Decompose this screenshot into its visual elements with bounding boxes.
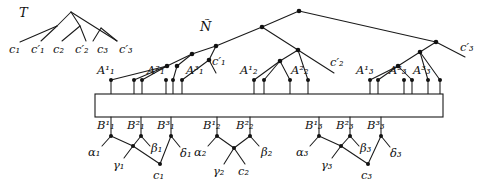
diagram-canvas <box>0 0 478 191</box>
A-node-ticks <box>111 80 440 94</box>
gadget-connector-box <box>95 94 443 117</box>
tree-network-gadget-figure: T c₁ c′₁ c₂ c′₂ c₃ c′₃ Ñ c′₁ c′₂ c′₃ A¹₁… <box>0 0 478 191</box>
A-node-label-A1-1: A¹₁ <box>97 65 115 77</box>
gadget3-leaf-alpha3: α₃ <box>296 147 308 159</box>
tree-T-leaf-c3-prime: c′₃ <box>119 44 133 56</box>
A-node-label-A2-3: A²₃ <box>389 65 407 77</box>
gadget1-leaf-gamma1: γ₁ <box>113 160 124 172</box>
B-node-label-B2-1: B²₁ <box>127 120 145 132</box>
tree-T-leaf-c2: c₂ <box>53 44 64 56</box>
gadget1-leaf-alpha1: α₁ <box>88 147 100 159</box>
gadget2-leaf-beta2: β₂ <box>261 147 272 159</box>
gadget1-leaf-c1: c₁ <box>153 170 164 182</box>
B-node-label-B1-2: B¹₂ <box>203 120 221 132</box>
B-node-label-B2-2: B²₂ <box>236 120 254 132</box>
A-node-label-A1-2: A¹₂ <box>240 65 258 77</box>
B-node-label-B3-1: B³₁ <box>157 120 175 132</box>
A-node-label-A3-1: A³₁ <box>186 65 204 77</box>
A-node-label-A3-3: A³₃ <box>413 65 431 77</box>
B-node-label-B1-1: B¹₁ <box>97 120 115 132</box>
gadget3-leaf-c3: c₃ <box>361 170 372 182</box>
tree-T-label: T <box>19 6 28 19</box>
A-node-label-A2-2: A²₂ <box>291 65 309 77</box>
tree-T-leaf-c2-prime: c′₂ <box>75 44 89 56</box>
gadget3-leaf-beta3: β₃ <box>360 143 371 155</box>
tree-T-leaf-c1-prime: c′₁ <box>31 44 45 56</box>
B-node-label-B1-3: B¹₃ <box>305 120 323 132</box>
network-N-label: Ñ <box>200 20 211 33</box>
gadget2-leaf-gamma2: γ₂ <box>213 166 224 178</box>
B-node-label-B2-3: B²₃ <box>336 120 354 132</box>
A-node-label-A1-3: A¹₃ <box>356 65 374 77</box>
gadget2-leaf-alpha2: α₂ <box>194 147 206 159</box>
tree-T-edges <box>20 12 117 42</box>
network-leaf-c2-prime: c′₂ <box>330 57 344 69</box>
network-leaf-c3-prime: c′₃ <box>460 42 474 54</box>
A-node-label-A2-1: A²₁ <box>147 65 165 77</box>
network-leaf-c1-prime: c′₁ <box>212 56 226 68</box>
gadget1-leaf-delta1: δ₁ <box>180 148 192 160</box>
tree-T-leaf-c1: c₁ <box>9 44 20 56</box>
gadget1-leaf-beta1: β₁ <box>151 143 162 155</box>
gadget3-leaf-delta3: δ₃ <box>390 148 402 160</box>
gadget2-leaf-c2: c₂ <box>238 166 249 178</box>
gadget-group-2-edges <box>208 136 259 164</box>
A-node-dots <box>109 78 442 82</box>
tree-T-leaf-c3: c₃ <box>97 44 108 56</box>
gadget-group-2-dots <box>215 134 252 150</box>
B-node-label-B3-3: B³₃ <box>367 120 385 132</box>
gadget3-leaf-gamma3: γ₃ <box>321 160 332 172</box>
